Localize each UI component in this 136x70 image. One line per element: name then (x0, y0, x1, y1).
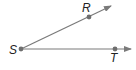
ray-sr (21, 6, 111, 49)
angle-diagram: S R T (0, 0, 136, 70)
point-r (87, 15, 92, 20)
label-s: S (9, 43, 17, 57)
label-t: T (110, 51, 119, 65)
point-s (19, 47, 24, 52)
label-r: R (82, 1, 91, 15)
